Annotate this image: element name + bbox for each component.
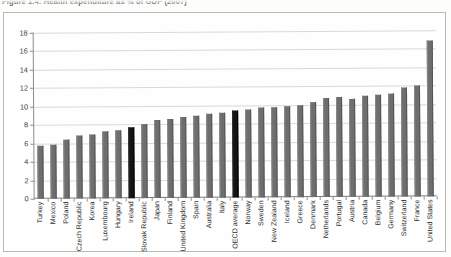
bar [219, 113, 226, 198]
bar-slot [358, 31, 372, 197]
y-axis-tick-label: 14 [20, 65, 28, 74]
bar [141, 124, 147, 198]
bar [116, 130, 122, 198]
bar-slot [60, 33, 74, 199]
bar-slot [215, 32, 229, 198]
bar [388, 93, 395, 196]
x-axis-label-slot: Canada [359, 199, 372, 257]
y-axis-tick-label: 12 [20, 84, 28, 93]
bar-slot [34, 33, 48, 199]
y-axis-tick-label: 4 [24, 157, 28, 166]
bar-slot [371, 31, 385, 197]
x-axis-label-slot: Australia [203, 200, 216, 257]
x-axis-label: Sweden [258, 200, 265, 226]
bar [284, 106, 291, 197]
x-axis-label: France [414, 199, 421, 221]
y-axis-tick-label: 16 [20, 47, 28, 56]
bar [180, 117, 186, 198]
bar-slot [241, 31, 255, 197]
x-axis-label-slot: Korea [87, 200, 100, 257]
bar-slot [189, 32, 203, 198]
bar-slot [280, 31, 294, 197]
x-axis-label-slot: OECD average [229, 200, 242, 257]
bar [271, 107, 278, 197]
x-axis-label-slot: Denmark [307, 199, 320, 257]
y-axis-tick-label: 0 [25, 194, 29, 203]
bar-slot [73, 32, 87, 198]
x-axis-label-slot: United States [424, 198, 437, 257]
x-axis-label: Belgium [375, 200, 382, 226]
x-axis-label: Canada [362, 200, 369, 225]
bar [245, 110, 252, 198]
x-axis-label-slot: Sweden [255, 199, 268, 257]
bar [401, 88, 408, 197]
bar-slot [306, 31, 320, 197]
x-axis-label-slot: France [411, 198, 424, 257]
bar-slot [384, 31, 398, 197]
x-axis-label-slot: Czech Republic [74, 200, 87, 257]
bar [51, 144, 57, 198]
x-axis-label: Germany [388, 200, 395, 229]
x-axis-label: Turkey [38, 202, 45, 223]
bar-slot [47, 33, 61, 199]
x-axis-label: Japan [154, 201, 161, 220]
figure-skew-layer: 024681012141618 TurkeyMexicoPolandCzech … [3, 10, 447, 253]
bar-slot [111, 32, 125, 198]
x-axis-label-slot: Switzerland [398, 199, 411, 257]
bar [103, 131, 109, 198]
x-axis-label-slot: Iceland [281, 199, 294, 257]
bar [297, 105, 304, 197]
x-axis-label-slot: Portugal [333, 199, 346, 257]
y-axis-tick-label: 10 [20, 102, 28, 111]
bar-slot [254, 31, 268, 197]
y-axis-tick-label: 2 [24, 176, 28, 185]
x-axis-label: United States [427, 199, 434, 242]
bar [323, 98, 330, 197]
bar [206, 114, 213, 198]
x-axis-label-slot: Austria [346, 199, 359, 257]
x-axis-label-slot: Belgium [372, 199, 385, 257]
x-axis-label-slot: United Kingdom [177, 200, 190, 257]
x-axis-label-slot: New Zealand [268, 199, 281, 257]
bar-slot [176, 32, 190, 198]
bar-slot [267, 31, 281, 197]
bar [77, 136, 83, 199]
x-axis-label-slot: Japan [151, 200, 164, 257]
bar-slot [293, 31, 307, 197]
bar-slot [137, 32, 151, 198]
bar-slot [86, 32, 100, 198]
y-axis-tick-label: 18 [19, 28, 27, 37]
x-axis-tick [437, 196, 438, 199]
x-axis-labels-group: TurkeyMexicoPolandCzech RepublicKoreaLux… [35, 198, 437, 257]
x-axis-label-slot: Finland [164, 200, 177, 257]
x-axis-label-slot: Greece [294, 199, 307, 257]
x-axis-label-slot: Spain [190, 200, 203, 257]
x-axis-label-slot: Netherlands [320, 199, 333, 257]
bar [232, 111, 239, 198]
bar-slot [410, 30, 424, 196]
bar-chart-plot-area: 024681012141618 [34, 30, 437, 198]
bar [90, 135, 96, 199]
bar-slot [397, 31, 411, 197]
x-axis-label: Czech Republic [76, 202, 83, 252]
x-axis-label: Switzerland [401, 200, 408, 237]
bar [154, 120, 160, 198]
x-axis-label: Hungary [115, 201, 122, 228]
figure-frame: 024681012141618 TurkeyMexicoPolandCzech … [3, 12, 446, 252]
x-axis-label-slot: Italy [216, 200, 229, 257]
x-axis-label: Spain [193, 201, 200, 219]
bar-slot [124, 32, 138, 198]
x-axis-label-slot: Slovak Republic [138, 200, 151, 257]
bar-slot [163, 32, 177, 198]
bar [414, 86, 421, 197]
x-axis-label: Korea [89, 201, 96, 220]
x-axis-label: Ireland [128, 201, 135, 223]
x-axis-label: Slovak Republic [141, 201, 148, 252]
bar [349, 99, 356, 197]
bar [426, 41, 433, 197]
bar-slot [228, 32, 242, 198]
bar [167, 119, 173, 198]
bar [310, 102, 317, 197]
x-axis-label: Greece [297, 200, 304, 223]
x-axis-label: Iceland [284, 200, 291, 223]
